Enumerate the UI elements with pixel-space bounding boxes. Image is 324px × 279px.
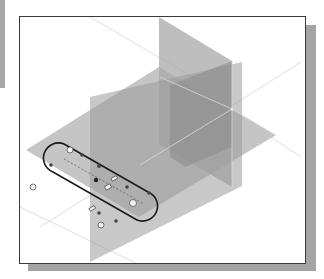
tangent-icon [67, 147, 73, 153]
3d-scene [20, 17, 306, 264]
left-panel-edge [0, 0, 5, 88]
origin-point [231, 108, 234, 111]
center-point-icon [130, 200, 137, 207]
tangent-icon [98, 222, 104, 228]
graphics-viewport[interactable] [19, 16, 306, 264]
coincident-icon [30, 184, 36, 190]
slot-center-point [94, 178, 98, 182]
